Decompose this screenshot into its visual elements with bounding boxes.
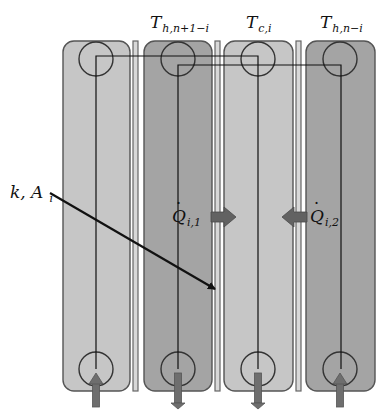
label-hot-temp-n: Th,n−i: [320, 14, 363, 34]
plate-1: [133, 41, 138, 391]
label-heat-flow-2: Qi,2: [310, 208, 339, 228]
label-conductivity-area: k, Ai: [10, 184, 53, 204]
label-cold-temp: Tc,i: [246, 14, 272, 34]
label-heat-flow-1: Qi,1: [172, 208, 201, 228]
label-hot-temp-n1: Th,n+1−i: [150, 14, 209, 34]
